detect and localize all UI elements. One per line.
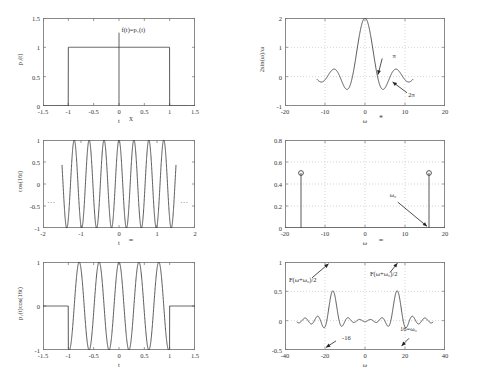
plot-panel-product-time <box>43 262 195 350</box>
x-tick-label: 0 <box>117 230 120 237</box>
y-tick-label: 0.8 <box>261 137 282 144</box>
y-axis-label-text: 2sin(ω)/ω <box>258 38 265 82</box>
y-axis-label-text: p₁(t)cos(16t) <box>16 282 23 326</box>
x-tick-label: 20 <box>442 108 449 115</box>
x-tick-label: 0 <box>363 352 366 359</box>
plot-annotation: f(t)=p₁(t) <box>122 26 146 33</box>
x-axis-label: t <box>118 239 120 246</box>
x-tick-label: 1.5 <box>191 352 199 359</box>
freq-equals-operator: = <box>379 236 384 245</box>
x-tick-label: 20 <box>442 230 449 237</box>
figure-root: -1.5-1-0.500.511.500.511.5tp₁(t)-20-1001… <box>0 0 478 376</box>
y-tick-label: 0.6 <box>261 159 282 166</box>
x-tick-label: 0 <box>363 230 366 237</box>
x-tick-label: 1.5 <box>191 108 199 115</box>
x-tick-label: 0.5 <box>140 108 148 115</box>
y-axis-label: 2sin(ω)/ω <box>239 56 283 63</box>
y-axis-label-text: p₁(t) <box>16 38 23 82</box>
plot-annotation: 16=ω₀ <box>400 325 417 332</box>
plot-panel-p1-time <box>43 18 195 106</box>
plot-panel-cos-time <box>43 140 195 228</box>
x-tick-label: -1 <box>78 230 83 237</box>
plot-canvas-cos-freq <box>285 140 445 228</box>
plot-canvas-p1-freq <box>285 18 445 106</box>
y-tick-label: 2 <box>261 15 282 22</box>
x-tick-label: -2 <box>40 230 45 237</box>
y-tick-label: 0.5 <box>261 288 282 295</box>
y-tick-label: 0 <box>261 317 282 324</box>
y-tick-label: 1.5 <box>19 15 40 22</box>
y-tick-label: 1 <box>19 137 40 144</box>
y-tick-label: 0 <box>19 103 40 110</box>
y-tick-label: 0 <box>261 225 282 232</box>
y-tick-label: -1 <box>19 225 40 232</box>
y-axis-label: p₁(t) <box>0 56 41 63</box>
x-tick-label: -10 <box>321 108 330 115</box>
x-axis-label: t <box>118 361 120 368</box>
plot-annotation: ω₀ <box>390 191 397 198</box>
plot-annotation: 2π <box>408 91 415 98</box>
plot-annotation: F(ω+ω₀)/2 <box>289 276 317 283</box>
x-tick-label: 0 <box>117 108 120 115</box>
x-axis-label: t <box>118 117 120 124</box>
x-tick-label: -1 <box>66 352 71 359</box>
x-axis-label: ω <box>363 239 367 246</box>
x-tick-label: 0 <box>117 352 120 359</box>
freq-convolve-operator: * <box>379 114 383 123</box>
x-tick-label: -0.5 <box>89 352 99 359</box>
x-tick-label: 1 <box>155 230 158 237</box>
x-tick-label: -10 <box>321 230 330 237</box>
y-tick-label: 0.2 <box>261 203 282 210</box>
x-tick-label: 0.5 <box>140 352 148 359</box>
plot-canvas-product-time <box>43 262 195 350</box>
plot-panel-p1-freq <box>285 18 445 106</box>
x-tick-label: -20 <box>321 352 330 359</box>
y-tick-label: -1 <box>19 347 40 354</box>
x-tick-label: 40 <box>442 352 449 359</box>
y-tick-label: 1 <box>261 259 282 266</box>
time-multiply-operator: x <box>129 114 133 123</box>
y-tick-label: -0.5 <box>261 347 282 354</box>
plot-canvas-p1-time <box>43 18 195 106</box>
x-tick-label: -1 <box>66 108 71 115</box>
x-tick-label: 10 <box>402 108 409 115</box>
y-axis-label: p₁(t)cos(16t) <box>0 300 41 307</box>
plot-annotation: F(ω+ω₀)/2 <box>370 270 398 277</box>
x-axis-label: ω <box>363 117 367 124</box>
y-tick-label: -1 <box>261 103 282 110</box>
x-tick-label: 2 <box>193 230 196 237</box>
plot-annotation: π <box>392 52 395 59</box>
plot-panel-cos-freq <box>285 140 445 228</box>
y-tick-label: 1 <box>19 259 40 266</box>
y-axis-label-text: cos(16t) <box>16 160 23 204</box>
plot-annotation: -16 <box>342 334 351 341</box>
x-tick-label: 1 <box>168 108 171 115</box>
x-tick-label: 20 <box>402 352 409 359</box>
x-tick-label: -0.5 <box>89 108 99 115</box>
right-ellipsis: ... <box>181 197 189 205</box>
time-equals-operator: = <box>129 236 134 245</box>
x-tick-label: 0 <box>363 108 366 115</box>
y-tick-label: 0.4 <box>261 181 282 188</box>
y-tick-label: -0.5 <box>19 203 40 210</box>
x-tick-label: 1 <box>168 352 171 359</box>
x-axis-label: ω <box>363 361 367 368</box>
x-tick-label: 10 <box>402 230 409 237</box>
plot-canvas-cos-time <box>43 140 195 228</box>
left-ellipsis: ... <box>48 197 56 205</box>
y-axis-label: cos(16t) <box>0 178 41 185</box>
